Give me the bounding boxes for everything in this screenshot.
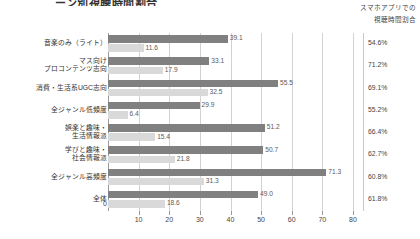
category-label: 全ジャンル高頻度 xyxy=(51,173,107,181)
bar-series-light xyxy=(108,133,155,140)
bar-series-dark xyxy=(108,35,228,42)
x-tick-label-80: 80 xyxy=(349,216,357,223)
bar-series-light xyxy=(108,200,165,207)
bar-series-dark xyxy=(108,57,209,64)
bar-value-label: 17.9 xyxy=(165,66,178,73)
category-label: 音楽のみ（ライト） xyxy=(44,39,107,47)
chart-row: 全体49.018.661.8% xyxy=(0,189,420,211)
x-tick-20 xyxy=(169,211,170,215)
page-title: ーン別視聴時間割合 xyxy=(0,0,250,6)
side-column-header: スマホアプリでの 視聴時間割合 xyxy=(334,2,416,26)
bar-series-light xyxy=(108,111,128,118)
bar-series-dark xyxy=(108,102,200,109)
side-column-value: 61.8% xyxy=(368,195,416,202)
x-tick-label-50: 50 xyxy=(257,216,265,223)
bar-value-label: 51.2 xyxy=(267,123,280,130)
chart-page: ーン別視聴時間割合 スマホアプリでの 視聴時間割合 音楽のみ（ライト）39.11… xyxy=(0,0,420,239)
chart-rows: 音楽のみ（ライト）39.111.654.6%マス向け プロコンテンツ志向33.1… xyxy=(0,33,420,211)
chart-row: 音楽のみ（ライト）39.111.654.6% xyxy=(0,33,420,55)
chart-row: 全ジャンル高頻度71.331.360.8% xyxy=(0,167,420,189)
bar-series-dark xyxy=(108,146,263,153)
category-label: マス向け プロコンテンツ志向 xyxy=(44,57,107,74)
chart-row: 娯楽と趣味・ 生活情報派51.215.466.4% xyxy=(0,122,420,144)
x-tick-40 xyxy=(231,211,232,215)
x-tick-label-10: 10 xyxy=(135,216,143,223)
x-tick-70 xyxy=(322,211,323,215)
x-tick-30 xyxy=(200,211,201,215)
chart-title-clipped: ーン別視聴時間割合 xyxy=(0,0,250,6)
bar-value-label: 11.6 xyxy=(146,44,158,51)
bar-series-light xyxy=(108,89,208,96)
x-tick-60 xyxy=(292,211,293,215)
x-tick-label-20: 20 xyxy=(165,216,173,223)
side-column-value: 54.6% xyxy=(368,39,416,46)
bar-series-dark xyxy=(108,169,326,176)
bar-series-light xyxy=(108,67,163,74)
bar-value-label: 55.5 xyxy=(280,79,293,86)
bar-value-label: 32.5 xyxy=(210,88,223,95)
bar-value-label: 71.3 xyxy=(328,168,341,175)
side-column-value: 60.8% xyxy=(368,173,416,180)
x-tick-10 xyxy=(139,211,140,215)
category-label: 学びと趣味・ 社会情報派 xyxy=(65,146,107,163)
x-tick-50 xyxy=(261,211,262,215)
x-tick-label-30: 30 xyxy=(196,216,204,223)
x-axis: 1020304050607080 xyxy=(108,211,353,231)
side-column-value: 55.2% xyxy=(368,106,416,113)
side-column-value: 69.1% xyxy=(368,84,416,91)
x-tick-80 xyxy=(353,211,354,215)
bar-series-light xyxy=(108,178,204,185)
bar-value-label: 29.9 xyxy=(202,101,215,108)
bar-value-label: 6.4 xyxy=(130,110,139,117)
bar-value-label: 50.7 xyxy=(265,146,278,153)
side-column-value: 62.7% xyxy=(368,150,416,157)
bar-series-light xyxy=(108,156,175,163)
bar-series-dark xyxy=(108,80,278,87)
side-column-value: 71.2% xyxy=(368,61,416,68)
bar-value-label: 18.6 xyxy=(167,199,180,206)
category-label: 全ジャンル低頻度 xyxy=(51,106,107,114)
category-label: 消費・生活系UGC志向 xyxy=(36,84,107,92)
chart-row: 全ジャンル低頻度29.96.455.2% xyxy=(0,100,420,122)
bar-series-dark xyxy=(108,124,265,131)
chart-row: 消費・生活系UGC志向55.532.569.1% xyxy=(0,78,420,100)
bar-series-dark xyxy=(108,191,258,198)
chart-row: 学びと趣味・ 社会情報派50.721.862.7% xyxy=(0,144,420,166)
category-label: 娯楽と趣味・ 生活情報派 xyxy=(65,124,107,141)
chart-row: マス向け プロコンテンツ志向33.117.971.2% xyxy=(0,55,420,77)
x-tick-label-60: 60 xyxy=(288,216,296,223)
bar-value-label: 31.3 xyxy=(206,177,219,184)
bar-value-label: 39.1 xyxy=(230,34,243,41)
x-tick-label-40: 40 xyxy=(227,216,235,223)
bar-value-label: 15.4 xyxy=(157,133,170,140)
bar-value-label: 21.8 xyxy=(177,155,190,162)
bar-value-label: 49.0 xyxy=(260,190,273,197)
bar-series-light xyxy=(108,44,144,51)
x-tick-label-zero: 0 xyxy=(103,200,107,207)
side-column-value: 66.4% xyxy=(368,128,416,135)
bar-value-label: 33.1 xyxy=(211,57,224,64)
x-tick-label-70: 70 xyxy=(318,216,326,223)
